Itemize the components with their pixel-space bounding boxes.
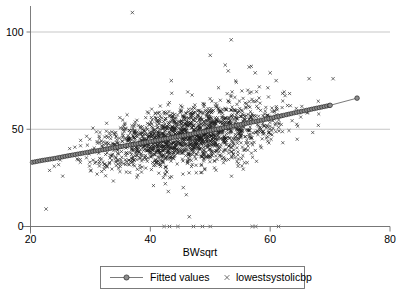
scatter-point-x-marker — [202, 146, 205, 149]
legend-entry-lowestsystolicbp[interactable]: lowestsystolicbp — [225, 271, 312, 283]
scatter-point-x-marker — [105, 141, 108, 144]
scatter-point-x-marker — [257, 115, 260, 118]
scatter-point-x-marker — [255, 90, 258, 93]
scatter-point-x-marker — [236, 150, 239, 153]
scatter-point-x-marker — [157, 156, 160, 159]
scatter-point-x-marker — [208, 160, 211, 163]
scatter-point-x-marker — [261, 137, 264, 140]
scatter-point-x-marker — [249, 126, 252, 129]
scatter-point-x-marker — [110, 167, 113, 170]
scatter-point-x-marker — [295, 107, 298, 110]
scatter-point-x-marker — [162, 176, 165, 179]
scatter-point-x-marker — [240, 157, 243, 160]
scatter-point-x-marker — [73, 146, 76, 149]
scatter-point-x-marker — [270, 138, 273, 141]
scatter-point-x-marker — [105, 122, 108, 125]
scatter-point-x-marker — [157, 172, 160, 175]
scatter-point-x-marker — [128, 159, 131, 162]
scatter-point-x-marker — [88, 161, 91, 164]
scatter-point-x-marker — [170, 79, 173, 82]
scatter-point-x-marker — [79, 158, 82, 161]
scatter-point-x-marker — [88, 165, 91, 168]
scatter-point-x-marker — [214, 154, 217, 157]
scatter-point-x-marker — [267, 95, 270, 98]
scatter-point-x-marker — [259, 109, 262, 112]
scatter-point-x-marker — [240, 164, 243, 167]
scatter-point-x-marker — [170, 92, 173, 95]
scatter-point-x-marker — [86, 144, 89, 147]
scatter-point-x-marker — [210, 100, 213, 103]
scatter-point-x-marker — [209, 54, 212, 57]
scatter-point-x-marker — [140, 171, 143, 174]
scatter-point-x-marker — [210, 154, 213, 157]
scatter-point-x-marker — [317, 100, 320, 103]
scatter-point-x-marker — [277, 126, 280, 129]
scatter-point-x-marker — [193, 107, 196, 110]
scatter-point-x-marker — [240, 89, 243, 92]
scatter-point-x-marker — [120, 150, 123, 153]
scatter-point-x-marker — [299, 115, 302, 118]
scatter-point-x-marker — [238, 107, 241, 110]
scatter-point-x-marker — [230, 38, 233, 41]
scatter-point-x-marker — [246, 89, 249, 92]
scatter-point-x-marker — [213, 160, 216, 163]
scatter-point-x-marker — [289, 104, 292, 107]
scatter-point-x-marker — [121, 118, 124, 121]
scatter-point-x-marker — [242, 168, 245, 171]
scatter-point-x-marker — [274, 130, 277, 133]
scatter-point-x-marker — [227, 158, 230, 161]
scatter-point-x-marker — [236, 146, 239, 149]
scatter-point-x-marker — [191, 94, 194, 97]
scatter-point-x-marker — [96, 173, 99, 176]
scatter-point-x-marker — [202, 105, 205, 108]
scatter-point-x-marker — [120, 156, 123, 159]
scatter-point-x-marker — [248, 100, 251, 103]
scatter-point-x-marker — [281, 130, 284, 133]
scatter-point-x-marker — [250, 152, 253, 155]
scatter-point-x-marker — [286, 104, 289, 107]
scatter-point-x-marker — [268, 121, 271, 124]
scatter-point-x-marker — [95, 130, 98, 133]
scatter-point-x-marker — [159, 114, 162, 117]
scatter-point-x-marker — [164, 182, 167, 185]
scatter-point-x-marker — [150, 108, 153, 111]
x-axis-tick-marks — [31, 227, 391, 232]
legend-label-fitted-values: Fitted values — [150, 271, 210, 283]
scatter-point-x-marker — [291, 119, 294, 122]
scatter-point-x-marker — [231, 105, 234, 108]
scatter-point-x-marker — [254, 149, 257, 152]
scatter-point-x-marker — [134, 120, 137, 123]
x-tick-label: 60 — [264, 233, 276, 245]
scatter-point-x-marker — [296, 138, 299, 141]
scatter-point-x-marker — [239, 141, 242, 144]
scatter-point-x-marker — [234, 133, 237, 136]
scatter-point-x-marker — [205, 118, 208, 121]
scatter-point-x-marker — [233, 96, 236, 99]
x-tick-label: 80 — [384, 233, 396, 245]
scatter-point-x-marker — [264, 110, 267, 113]
scatter-point-x-marker — [159, 165, 162, 168]
scatter-point-x-marker — [227, 69, 230, 72]
scatter-point-x-marker — [270, 106, 273, 109]
scatter-point-x-marker — [125, 171, 128, 174]
scatter-point-x-marker — [233, 156, 236, 159]
scatter-point-x-marker — [246, 161, 249, 164]
scatter-point-x-marker — [61, 175, 64, 178]
y-tick-label: 100 — [6, 26, 24, 38]
scatter-point-x-marker — [176, 162, 179, 165]
scatter-point-x-marker — [149, 130, 152, 133]
scatter-point-x-marker — [188, 215, 191, 218]
scatter-point-x-marker — [144, 154, 147, 157]
scatter-point-x-marker — [109, 134, 112, 137]
x-tick-label: 20 — [25, 233, 37, 245]
scatter-point-x-marker — [88, 138, 91, 141]
scatter-point-x-marker — [254, 115, 257, 118]
scatter-point-x-marker — [112, 179, 115, 182]
scatter-point-x-marker — [264, 106, 267, 109]
scatter-point-x-marker — [159, 104, 162, 107]
scatter-point-x-marker — [109, 137, 112, 140]
scatter-point-x-marker — [167, 190, 170, 193]
scatter-point-x-marker — [115, 138, 118, 141]
scatter-point-x-marker — [176, 113, 179, 116]
scatter-point-x-marker — [179, 104, 182, 107]
